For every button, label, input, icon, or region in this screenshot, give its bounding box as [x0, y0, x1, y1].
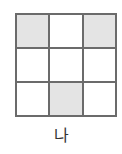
grid-cell-r2-c1: [16, 48, 49, 82]
grid-cell-r3-c1: [16, 82, 49, 116]
grid-cell-r1-c2: [49, 14, 82, 48]
grid-cell-r2-c3: [83, 48, 116, 82]
grid-figure: [15, 13, 117, 117]
figure-label: 나: [0, 122, 122, 146]
grid-cell-r3-c2-shaded: [49, 82, 82, 116]
grid-cell-r1-c1-shaded: [16, 14, 49, 48]
grid-cell-r3-c3: [83, 82, 116, 116]
grid-cell-r1-c3-shaded: [83, 14, 116, 48]
grid-cell-r2-c2: [49, 48, 82, 82]
